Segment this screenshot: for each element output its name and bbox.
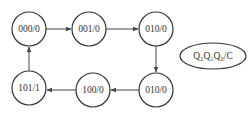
state-label: 100/0	[82, 85, 104, 95]
state-label: 101/1	[18, 83, 40, 93]
state-100: 100/0	[76, 73, 110, 107]
state-101: 101/1	[12, 71, 46, 105]
state-label: 000/0	[18, 24, 40, 34]
state-000: 000/0	[12, 12, 46, 46]
state-label: 001/0	[78, 24, 100, 34]
state-001: 001/0	[72, 12, 106, 46]
state-diagram: 000/0 001/0 010/0 010/0 100/0 101/1 Q₂Q₁…	[0, 0, 250, 114]
state-label: 010/0	[145, 24, 167, 34]
legend: Q₂Q₁Q₀/C	[180, 43, 246, 69]
state-010-top: 010/0	[139, 12, 173, 46]
legend-label: Q₂Q₁Q₀/C	[193, 51, 233, 61]
state-010-bottom: 010/0	[139, 73, 173, 107]
state-label: 010/0	[145, 85, 167, 95]
